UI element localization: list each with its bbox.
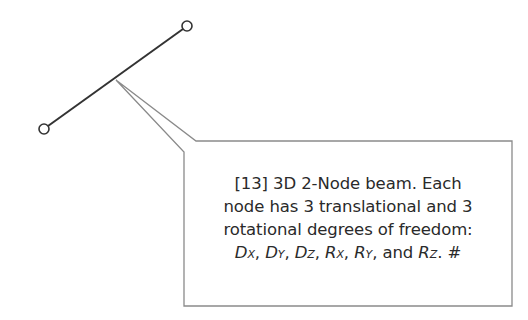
callout-text: [13] 3D 2-Node beam. Each node has 3 tra…: [186, 172, 510, 266]
beam-node-a: [39, 124, 49, 134]
dof-conjunction: and: [382, 243, 413, 262]
callout-line-1: [13] 3D 2-Node beam. Each: [186, 172, 510, 195]
dof-dz: DZ: [295, 243, 315, 262]
beam-element: [48, 29, 183, 126]
callout-line-dof: DX, DY, DZ, RX, RY, and RZ. #: [186, 241, 510, 266]
dof-rx: RX: [325, 243, 344, 262]
dof-ry: RY: [354, 243, 372, 262]
dof-rz: RZ: [418, 243, 437, 262]
dof-suffix: . #: [437, 243, 461, 262]
dof-dx: DX: [235, 243, 255, 262]
callout-line-2: node has 3 translational and 3: [186, 195, 510, 218]
callout-line-3: rotational degrees of freedom:: [186, 218, 510, 241]
diagram-canvas: [0, 0, 528, 320]
beam-node-b: [182, 21, 192, 31]
dof-dy: DY: [265, 243, 284, 262]
